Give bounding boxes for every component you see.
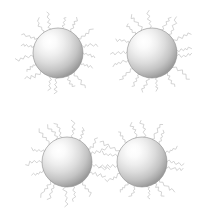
figure-background xyxy=(0,0,206,211)
particle-top-right-core xyxy=(127,28,177,78)
particle-bottom-right-core xyxy=(117,137,167,187)
particle-top-right xyxy=(127,28,177,78)
figure-canvas xyxy=(0,0,206,211)
particle-bottom-left-core xyxy=(42,137,92,187)
particle-bottom-right xyxy=(117,137,167,187)
particle-bottom-left xyxy=(42,137,92,187)
particle-top-left-core xyxy=(33,28,83,78)
particle-top-left xyxy=(33,28,83,78)
nanoparticle-figure xyxy=(0,0,206,211)
